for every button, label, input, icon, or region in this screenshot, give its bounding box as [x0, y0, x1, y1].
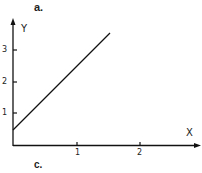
- x-tick-label-2: 2: [137, 149, 142, 157]
- x-tick-label-1: 1: [75, 149, 80, 157]
- data-line: [13, 33, 110, 130]
- x-axis-label: X: [186, 128, 193, 138]
- y-tick-label-2: 2: [2, 78, 7, 86]
- panel-label-c: c.: [34, 160, 42, 170]
- y-tick-label-3: 3: [2, 46, 7, 54]
- chart-plot: [0, 0, 202, 173]
- x-axis-arrow-icon: [194, 143, 201, 148]
- y-axis-label: Y: [21, 24, 27, 34]
- y-axis-arrow-icon: [11, 18, 16, 25]
- y-tick-label-1: 1: [2, 109, 7, 117]
